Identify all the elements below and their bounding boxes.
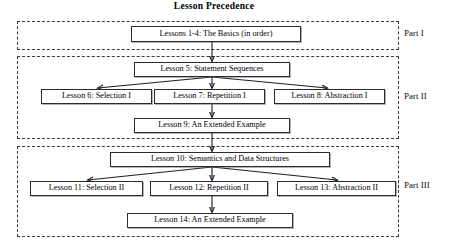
- part-label-1: Part I: [404, 28, 424, 38]
- node-lesson-12[interactable]: Lesson 12: Repetition II: [150, 181, 268, 196]
- node-lesson-9[interactable]: Lesson 9: An Extended Example: [134, 118, 290, 133]
- node-lesson-6[interactable]: Lesson 6: Selection I: [41, 89, 152, 104]
- part-label-2: Part II: [404, 91, 427, 101]
- diagram-title: Lesson Precedence: [0, 1, 428, 11]
- node-lessons-1-4[interactable]: Lessons 1-4: The Basics (in order): [131, 26, 301, 42]
- node-lesson-11[interactable]: Lesson 11: Selection II: [30, 181, 143, 196]
- node-lesson-8[interactable]: Lesson 8: Abstraction I: [274, 89, 385, 104]
- node-lesson-7[interactable]: Lesson 7: Repetition I: [154, 89, 265, 104]
- lesson-precedence-diagram: Lesson Precedence Part I Part II Part II…: [0, 0, 453, 248]
- node-lesson-14[interactable]: Lesson 14: An Extended Example: [127, 213, 293, 228]
- node-lesson-5[interactable]: Lesson 5: Statement Sequences: [134, 62, 290, 77]
- node-lesson-13[interactable]: Lesson 13: Abstraction II: [277, 181, 396, 196]
- node-lesson-10[interactable]: Lesson 10: Semantics and Data Structures: [110, 152, 330, 167]
- part-label-3: Part III: [404, 180, 430, 190]
